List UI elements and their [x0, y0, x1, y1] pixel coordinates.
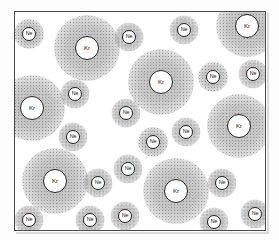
atom-symbol-label: Ne	[26, 217, 33, 222]
atom-symbol-label: Ne	[87, 217, 94, 222]
atom-ne: Ne	[66, 130, 80, 144]
atom-core: Kr	[43, 169, 67, 193]
atom-symbol-label: Ne	[95, 180, 102, 185]
atom-core: Kr	[149, 70, 173, 94]
atom-ne: Ne	[91, 176, 105, 190]
gas-mixture-diagram: NeKrNeNeKrKrNeNeKrNeNeKrNeNeNeNeKrNeKrNe…	[0, 0, 279, 240]
atom-core: Ne	[119, 106, 133, 120]
atom-ne: Ne	[215, 176, 229, 190]
atom-symbol-label: Ne	[219, 180, 226, 185]
atom-kr: Kr	[149, 70, 173, 94]
atom-symbol-label: Ne	[70, 134, 77, 139]
atom-ne: Ne	[119, 106, 133, 120]
atom-core: Kr	[75, 36, 99, 60]
atom-core: Ne	[122, 30, 136, 44]
atom-ne: Ne	[146, 135, 160, 149]
atom-symbol-label: Ne	[211, 219, 218, 224]
atom-kr: Kr	[75, 36, 99, 60]
atom-kr: Kr	[43, 169, 67, 193]
atom-ne: Ne	[179, 125, 193, 139]
atom-ne: Ne	[68, 87, 82, 101]
atom-kr: Kr	[227, 114, 251, 138]
atom-ne: Ne	[22, 213, 36, 227]
atom-ne: Ne	[122, 30, 136, 44]
atom-ne: Ne	[121, 162, 135, 176]
atom-kr: Kr	[164, 179, 188, 203]
atom-core: Kr	[235, 14, 259, 38]
atom-core: Ne	[248, 207, 262, 221]
atom-symbol-label: Ne	[181, 27, 188, 32]
atom-ne: Ne	[22, 27, 36, 41]
atom-core: Ne	[66, 130, 80, 144]
atom-symbol-label: Ne	[72, 91, 79, 96]
atom-core: Ne	[121, 162, 135, 176]
atom-symbol-label: Kr	[29, 105, 35, 111]
atom-symbol-label: Ne	[126, 34, 133, 39]
atom-kr: Kr	[20, 96, 44, 120]
atom-core: Ne	[179, 125, 193, 139]
atom-ne: Ne	[83, 213, 97, 227]
atom-symbol-label: Ne	[125, 166, 132, 171]
atom-core: Ne	[68, 87, 82, 101]
atom-symbol-label: Kr	[158, 79, 164, 85]
atom-symbol-label: Kr	[173, 188, 179, 194]
atom-core: Ne	[246, 67, 260, 81]
atom-core: Kr	[227, 114, 251, 138]
atom-ne: Ne	[118, 209, 132, 223]
atom-symbol-label: Ne	[252, 211, 259, 216]
atom-core: Ne	[22, 213, 36, 227]
atom-core: Ne	[146, 135, 160, 149]
atom-core: Ne	[215, 176, 229, 190]
atom-core: Ne	[206, 70, 220, 84]
atom-core: Ne	[83, 213, 97, 227]
atom-symbol-label: Ne	[250, 71, 257, 76]
atom-symbol-label: Kr	[84, 45, 90, 51]
atom-core: Ne	[91, 176, 105, 190]
atom-core: Ne	[22, 27, 36, 41]
atom-symbol-label: Kr	[244, 23, 250, 29]
atom-symbol-label: Kr	[236, 123, 242, 129]
atom-symbol-label: Ne	[123, 110, 130, 115]
atom-symbol-label: Ne	[122, 213, 129, 218]
atom-core: Ne	[118, 209, 132, 223]
atom-ne: Ne	[248, 207, 262, 221]
atom-symbol-label: Ne	[183, 129, 190, 134]
atom-symbol-label: Kr	[52, 178, 58, 184]
atom-ne: Ne	[246, 67, 260, 81]
atom-core: Ne	[207, 215, 221, 229]
atom-core: Kr	[164, 179, 188, 203]
container-box: NeKrNeNeKrKrNeNeKrNeNeKrNeNeNeNeKrNeKrNe…	[14, 11, 266, 231]
atom-ne: Ne	[207, 215, 221, 229]
atom-core: Kr	[20, 96, 44, 120]
atom-symbol-label: Ne	[150, 139, 157, 144]
atom-symbol-label: Ne	[210, 74, 217, 79]
atom-kr: Kr	[235, 14, 259, 38]
atom-ne: Ne	[177, 23, 191, 37]
atom-symbol-label: Ne	[26, 31, 33, 36]
atom-ne: Ne	[206, 70, 220, 84]
atom-core: Ne	[177, 23, 191, 37]
